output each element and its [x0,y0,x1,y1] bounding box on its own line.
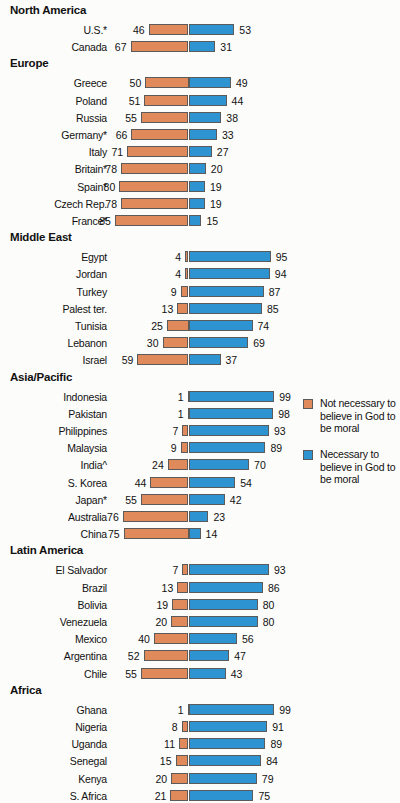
value-label-right: 37 [226,353,252,367]
value-label-left: 1 [158,703,184,717]
chart-row: El Salvador793 [0,563,400,577]
chart-row: Germany*6633 [0,128,400,142]
row-label: El Salvador [0,563,107,577]
legend-label: Necessary to believe in God to be moral [320,448,400,486]
value-label-right: 74 [258,319,284,333]
row-label: India^ [0,458,107,472]
bar-not-necessary [141,494,189,505]
row-label: Mexico [0,632,107,646]
bar-not-necessary [182,721,189,732]
value-label-right: 31 [220,40,246,54]
value-label-left: 80 [89,180,115,194]
legend-swatch-orange [303,399,313,409]
bar-not-necessary [144,650,189,661]
group-header: Africa [10,684,41,696]
chart-row: Argentina5247 [0,649,400,663]
value-label-right: 56 [242,632,268,646]
value-label-left: 40 [124,632,150,646]
value-label-left: 55 [111,667,137,681]
value-label-right: 23 [213,510,239,524]
chart-row: Tunisia2574 [0,319,400,333]
chart-row: Russia5538 [0,111,400,125]
chart-row: Poland5144 [0,94,400,108]
bar-necessary [189,790,254,801]
value-label-left: 75 [94,527,120,541]
chart-row: Australia7623 [0,510,400,524]
bar-not-necessary [141,112,189,123]
value-label-left: 8 [152,720,178,734]
value-label-right: 89 [270,737,296,751]
bar-not-necessary [145,77,188,88]
value-label-left: 76 [93,510,119,524]
value-label-right: 43 [231,667,257,681]
bar-necessary [189,494,225,505]
row-label: China [0,527,107,541]
row-label: Philippines [0,424,107,438]
value-label-right: 42 [230,493,256,507]
value-label-left: 9 [151,441,177,455]
bar-not-necessary [179,738,189,749]
value-label-right: 95 [276,250,302,264]
chart-row: Egypt495 [0,250,400,264]
value-label-left: 20 [141,772,167,786]
bar-not-necessary [168,459,189,470]
value-label-right: 99 [279,703,305,717]
row-label: Chile [0,667,107,681]
bar-not-necessary [171,616,188,627]
bar-necessary [189,511,209,522]
chart-row: Israel5937 [0,353,400,367]
value-label-right: 27 [217,145,243,159]
bar-necessary [189,181,205,192]
value-label-right: 80 [263,598,289,612]
value-label-right: 69 [253,336,279,350]
chart-row: Italy7127 [0,145,400,159]
row-label: Bolivia [0,598,107,612]
value-label-right: 91 [272,720,298,734]
value-label-left: 4 [155,250,181,264]
bar-necessary [189,704,275,715]
bar-necessary [189,668,226,679]
chart-row: Lebanon3069 [0,336,400,350]
value-label-left: 30 [133,336,159,350]
row-label: Greece [0,76,107,90]
row-label: Jordan [0,267,107,281]
chart-row: Kenya2079 [0,772,400,786]
bar-necessary [189,41,216,52]
value-label-right: 33 [222,128,248,142]
bar-necessary [189,354,221,365]
row-label: Nigeria [0,720,107,734]
value-label-right: 20 [211,162,237,176]
bar-not-necessary [121,198,188,209]
value-label-right: 53 [239,23,265,37]
row-label: S. Korea [0,476,107,490]
chart-row: S. Africa2175 [0,789,400,803]
chart-row: Spain*8019 [0,180,400,194]
value-label-left: 4 [155,267,181,281]
group-header: North America [10,4,86,16]
value-label-right: 54 [240,476,266,490]
bar-not-necessary [170,790,188,801]
bar-not-necessary [171,773,188,784]
value-label-right: 84 [266,754,292,768]
chart-row: Nigeria891 [0,720,400,734]
value-label-right: 89 [270,441,296,455]
row-label: Malaysia [0,441,107,455]
row-label: Canada [0,40,107,54]
bar-necessary [189,24,235,35]
value-label-left: 1 [158,390,184,404]
chart-row: Palest ter.1385 [0,302,400,316]
bar-not-necessary [123,511,189,522]
chart-row: Chile5543 [0,667,400,681]
value-label-right: 70 [254,458,280,472]
chart-row: Mexico4056 [0,632,400,646]
bar-necessary [189,599,258,610]
bar-necessary [189,564,269,575]
chart-row: Bolivia1980 [0,598,400,612]
bar-not-necessary [172,599,188,610]
value-label-right: 15 [206,214,232,228]
chart-row: Venezuela2080 [0,615,400,629]
bar-necessary [189,425,269,436]
bar-necessary [189,268,270,279]
bar-necessary [189,337,249,348]
value-label-right: 79 [262,772,288,786]
